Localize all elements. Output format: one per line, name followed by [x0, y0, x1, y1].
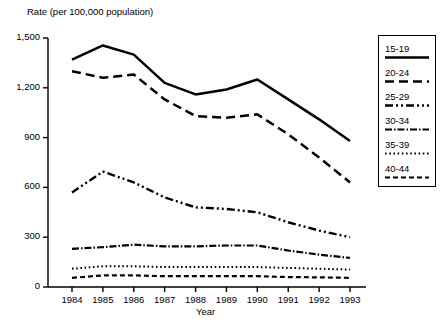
y-axis-tick-label: 900: [6, 131, 40, 142]
y-axis-tick-label: 0: [6, 280, 40, 291]
x-axis-tick-label: 1991: [273, 294, 303, 305]
series-line-30-34: [72, 245, 350, 258]
x-axis-tick-label: 1986: [119, 294, 149, 305]
series-line-20-24: [72, 71, 350, 182]
legend-label: 40-44: [384, 163, 432, 174]
x-axis-tick-label: 1993: [335, 294, 365, 305]
series-line-35-39: [72, 266, 350, 269]
x-axis-title: Year: [196, 306, 215, 317]
legend-label: 25-29: [384, 91, 432, 102]
legend-item-20-24[interactable]: 20-24: [384, 67, 432, 84]
legend-item-40-44[interactable]: 40-44: [384, 163, 432, 180]
legend-label: 35-39: [384, 139, 432, 150]
legend-label: 15-19: [384, 43, 432, 54]
legend-item-30-34[interactable]: 30-34: [384, 115, 432, 132]
legend-swatch-25-29: [384, 103, 430, 108]
legend-label: 30-34: [384, 115, 432, 126]
series-line-15-19: [72, 45, 350, 140]
legend-swatch-40-44: [384, 175, 430, 180]
x-axis-tick-label: 1985: [88, 294, 118, 305]
series-line-40-44: [72, 275, 350, 277]
legend-item-25-29[interactable]: 25-29: [384, 91, 432, 108]
line-chart: Rate (per 100,000 population) 0300600900…: [0, 0, 443, 324]
y-axis-tick-label: 300: [6, 230, 40, 241]
series-line-25-29: [72, 172, 350, 238]
legend-label: 20-24: [384, 67, 432, 78]
legend-swatch-30-34: [384, 127, 430, 132]
y-axis-tick-label: 1,200: [6, 81, 40, 92]
legend-swatch-20-24: [384, 79, 430, 84]
legend: 15-1920-2425-2930-3435-3940-44: [378, 35, 436, 187]
legend-item-35-39[interactable]: 35-39: [384, 139, 432, 156]
x-axis-tick-label: 1990: [242, 294, 272, 305]
legend-swatch-35-39: [384, 151, 430, 156]
y-axis-tick-label: 1,500: [6, 31, 40, 42]
x-axis-tick-label: 1984: [57, 294, 87, 305]
x-axis-tick-label: 1992: [304, 294, 334, 305]
legend-swatch-15-19: [384, 55, 430, 60]
x-axis-tick-label: 1989: [211, 294, 241, 305]
x-axis-tick-label: 1988: [181, 294, 211, 305]
y-axis-tick-label: 600: [6, 180, 40, 191]
legend-item-15-19[interactable]: 15-19: [384, 43, 432, 60]
x-axis-tick-label: 1987: [150, 294, 180, 305]
plot-area: [0, 0, 443, 324]
